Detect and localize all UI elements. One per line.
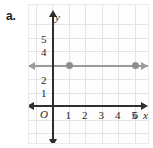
y-tick-label-4: 4 [41, 47, 47, 58]
gridline-vertical [69, 5, 70, 143]
gridline-horizontal [29, 93, 148, 94]
problem-letter-label: a. [6, 9, 16, 23]
gridline-horizontal [29, 79, 148, 80]
gridline-horizontal [29, 24, 148, 25]
plot-line-y-equals-3 [29, 65, 148, 67]
plot-point [66, 62, 73, 69]
x-axis-left-arrow-icon [28, 102, 34, 110]
coordinate-grid-panel: y x O 1 2 3 4 5 6 1 2 4 5 [28, 4, 149, 144]
y-tick-label-5: 5 [41, 34, 47, 45]
gridline-vertical [102, 5, 103, 143]
y-axis-line [52, 16, 54, 142]
origin-label: O [40, 109, 48, 120]
plot-point [132, 62, 139, 69]
y-axis-down-arrow-icon [49, 139, 57, 144]
plot-line-left-arrow-icon [28, 62, 35, 70]
x-tick-label-1: 1 [66, 110, 72, 121]
y-tick-label-2: 2 [41, 75, 47, 86]
y-axis-label: y [55, 12, 60, 23]
gridline-vertical [118, 5, 119, 143]
plot-line-right-arrow-icon [141, 62, 148, 70]
gridline-vertical [36, 5, 37, 143]
x-tick-label-2: 2 [82, 110, 88, 121]
x-tick-label-6: 6 [133, 110, 139, 121]
x-axis-line [29, 105, 142, 107]
gridline-vertical [85, 5, 86, 143]
x-axis-label: x [143, 110, 148, 121]
x-tick-label-4: 4 [115, 110, 121, 121]
figure-root: a. y x [0, 0, 153, 148]
x-tick-label-3: 3 [99, 110, 105, 121]
gridline-horizontal [29, 133, 148, 134]
gridline-vertical [135, 5, 136, 143]
y-tick-label-1: 1 [41, 88, 47, 99]
